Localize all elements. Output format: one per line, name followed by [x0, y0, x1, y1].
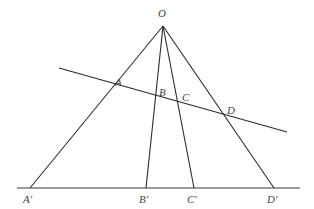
- label-o: O: [158, 7, 166, 19]
- label-c: C: [182, 91, 190, 103]
- label-d: D: [226, 104, 235, 116]
- label-a: A: [114, 76, 122, 88]
- ray-a: [30, 26, 163, 188]
- label-c-prime: C': [187, 193, 197, 205]
- ray-b: [146, 26, 163, 188]
- label-d-prime: D': [266, 193, 278, 205]
- label-b: B: [159, 86, 166, 98]
- ray-d: [163, 26, 274, 188]
- label-a-prime: A': [22, 193, 33, 205]
- cross-ratio-diagram: OABCDA'B'C'D': [0, 0, 314, 209]
- label-b-prime: B': [139, 193, 149, 205]
- ray-c: [163, 26, 194, 188]
